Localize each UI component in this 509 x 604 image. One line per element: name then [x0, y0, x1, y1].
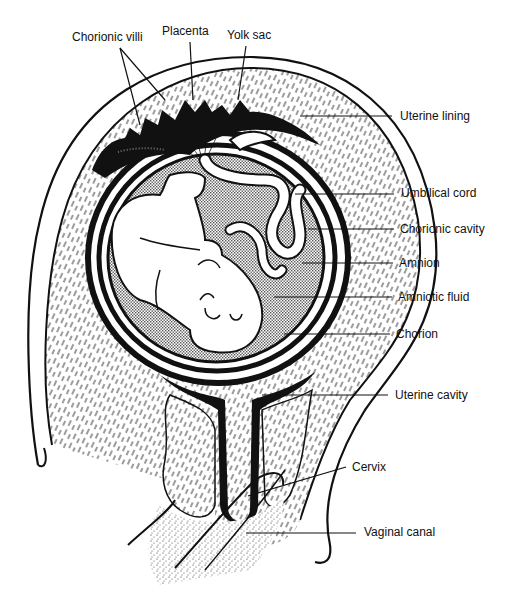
label-chorionic-villi: Chorionic villi [72, 30, 143, 44]
label-cervix: Cervix [352, 460, 386, 474]
label-amniotic-fluid: Amniotic fluid [398, 290, 469, 304]
label-yolk-sac: Yolk sac [227, 28, 271, 42]
label-vaginal-canal: Vaginal canal [364, 525, 435, 539]
label-umbilical-cord: Umbilical cord [401, 186, 476, 200]
label-uterine-cavity: Uterine cavity [395, 388, 468, 402]
label-chorionic-cavity: Chorionic cavity [400, 222, 485, 236]
label-chorion: Chorion [396, 327, 438, 341]
label-amnion: Amnion [399, 256, 440, 270]
label-placenta: Placenta [162, 24, 209, 38]
label-uterine-lining: Uterine lining [400, 109, 470, 123]
fetus-uterus-diagram: Chorionic villi Placenta Yolk sac Uterin… [0, 0, 509, 604]
